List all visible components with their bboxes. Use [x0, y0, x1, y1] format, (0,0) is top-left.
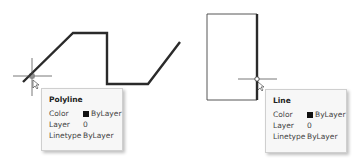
tooltip-row-color: Color ByLayer	[273, 109, 346, 120]
tooltip-value: ByLayer	[315, 110, 346, 119]
tooltip-key: Layer	[273, 121, 307, 130]
tooltip-row-layer: Layer 0	[49, 119, 122, 130]
tooltip-key: Color	[273, 110, 307, 119]
tooltip-value: ByLayer	[91, 109, 122, 118]
polyline-tooltip: Polyline Color ByLayer Layer 0 Linetype …	[41, 88, 123, 151]
tooltip-key: Color	[49, 109, 83, 118]
tooltip-row-linetype: Linetype ByLayer	[49, 130, 122, 141]
color-swatch-icon	[307, 112, 313, 118]
tooltip-key: Layer	[49, 120, 83, 129]
color-swatch-icon	[83, 111, 89, 117]
tooltip-value: ByLayer	[83, 131, 114, 140]
tooltip-row-color: Color ByLayer	[49, 108, 122, 119]
tooltip-value: 0	[307, 121, 312, 130]
tooltip-value: ByLayer	[307, 132, 338, 141]
tooltip-row-linetype: Linetype ByLayer	[273, 131, 346, 142]
tooltip-key: Linetype	[273, 132, 307, 141]
tooltip-title: Line	[273, 96, 346, 105]
rectangle-lines	[207, 14, 257, 100]
tooltip-value: 0	[83, 120, 88, 129]
line-tooltip: Line Color ByLayer Layer 0 Linetype ByLa…	[265, 89, 347, 153]
tooltip-title: Polyline	[49, 95, 122, 104]
tooltip-row-layer: Layer 0	[273, 120, 346, 131]
tooltip-key: Linetype	[49, 131, 83, 140]
